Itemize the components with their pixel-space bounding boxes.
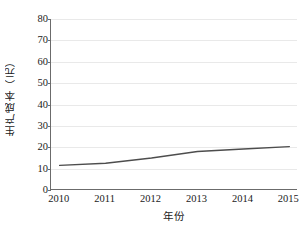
y-tick-label-80: 80 xyxy=(18,14,48,25)
y-tick-label-70: 70 xyxy=(18,35,48,46)
y-tick-mark-0 xyxy=(48,190,52,191)
y-axis-tick-labels: 01020304050607080 xyxy=(18,0,48,200)
x-tick-label-2012: 2012 xyxy=(128,193,174,205)
figure-caption xyxy=(0,228,306,238)
plot-area xyxy=(50,19,297,190)
x-tick-label-2010: 2010 xyxy=(36,193,82,205)
x-tick-label-2015: 2015 xyxy=(265,193,306,205)
y-tick-label-10: 10 xyxy=(18,164,48,175)
y-tick-label-50: 50 xyxy=(18,78,48,89)
x-tick-label-2011: 2011 xyxy=(82,193,128,205)
y-axis-title: 生产成本（元） xyxy=(0,0,20,190)
y-tick-label-30: 30 xyxy=(18,121,48,132)
y-tick-label-20: 20 xyxy=(18,142,48,153)
x-axis-tick-labels: 201020112012201320142015 xyxy=(50,193,297,209)
y-tick-label-60: 60 xyxy=(18,57,48,68)
plot-inner xyxy=(51,19,297,189)
y-tick-label-40: 40 xyxy=(18,100,48,111)
line-chart-figure: 生产成本（元） 01020304050607080 20102011201220… xyxy=(0,0,306,238)
x-tick-label-2014: 2014 xyxy=(219,193,265,205)
x-tick-label-2013: 2013 xyxy=(173,193,219,205)
y-axis-title-text: 生产成本（元） xyxy=(3,55,18,136)
series-line-生产成本 xyxy=(60,147,290,166)
data-line-svg xyxy=(51,19,298,190)
x-axis-title: 年份 xyxy=(50,208,297,223)
